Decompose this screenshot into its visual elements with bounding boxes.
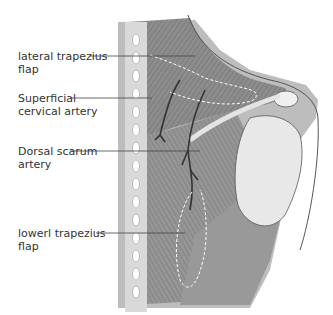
label-line: artery bbox=[18, 158, 97, 171]
vertebrae bbox=[133, 34, 140, 298]
label-line: lateral trapezius bbox=[18, 50, 108, 63]
humerus-bone bbox=[235, 116, 302, 226]
label-lateral-trapezius-flap: lateral trapezius flap bbox=[18, 50, 108, 76]
label-line: Dorsal scarum bbox=[18, 145, 97, 158]
label-lower-trapezius-flap: lowerl trapezius flap bbox=[18, 227, 105, 253]
label-line: Superficial bbox=[18, 92, 98, 105]
label-superficial-cervical-artery: Superficial cervical artery bbox=[18, 92, 98, 118]
label-line: flap bbox=[18, 63, 108, 76]
label-dorsal-scapular-artery: Dorsal scarum artery bbox=[18, 145, 97, 171]
label-line: lowerl trapezius bbox=[18, 227, 105, 240]
label-line: flap bbox=[18, 240, 105, 253]
label-line: cervical artery bbox=[18, 105, 98, 118]
